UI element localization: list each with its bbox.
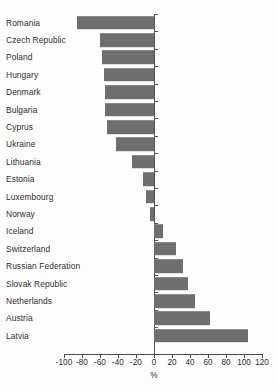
bar-row: Romania (0, 14, 278, 31)
category-tick (154, 205, 158, 206)
bar-row: Poland (0, 49, 278, 66)
bar-chart: RomaniaCzech RepublicPolandHungaryDenmar… (0, 0, 278, 391)
bar-row: Czech Republic (0, 31, 278, 48)
x-tick-label: 60 (203, 358, 212, 367)
bar (154, 259, 183, 273)
bar (154, 242, 176, 256)
category-label: Iceland (6, 226, 96, 236)
category-tick (154, 171, 158, 172)
category-tick (154, 14, 158, 15)
category-tick (154, 31, 158, 32)
category-tick (154, 258, 158, 259)
category-label: Denmark (6, 87, 96, 97)
x-tick-label: -100 (56, 358, 72, 367)
bar-row: Austria (0, 310, 278, 327)
bar (154, 225, 163, 239)
category-tick (154, 153, 158, 154)
bar (154, 277, 188, 291)
category-tick (154, 223, 158, 224)
bar-row: Hungary (0, 66, 278, 83)
x-tick-label: 80 (221, 358, 230, 367)
bar-row: Estonia (0, 171, 278, 188)
category-label: Austria (6, 313, 96, 323)
bar (154, 294, 195, 308)
category-label: Estonia (6, 174, 96, 184)
x-axis-title: % (150, 371, 157, 380)
category-label: Bulgaria (6, 105, 96, 115)
bar-row: Netherlands (0, 292, 278, 309)
bar (154, 312, 210, 326)
bar (105, 103, 154, 117)
x-tick-label: -60 (94, 358, 106, 367)
bar (132, 155, 154, 169)
category-tick (154, 101, 158, 102)
bar-row: Switzerland (0, 240, 278, 257)
bar (77, 16, 154, 30)
category-tick (154, 310, 158, 311)
bar (154, 329, 248, 343)
category-label: Cyprus (6, 122, 96, 132)
bar (143, 172, 154, 186)
bar-row: Luxembourg (0, 188, 278, 205)
category-tick (154, 275, 158, 276)
x-axis-line (64, 354, 262, 355)
bar (116, 138, 154, 152)
category-tick (154, 240, 158, 241)
bar-row: Russian Federation (0, 258, 278, 275)
bar (146, 190, 154, 204)
bar (100, 33, 154, 47)
category-tick (154, 292, 158, 293)
x-tick-label: -20 (130, 358, 142, 367)
category-label: Slovak Republic (6, 279, 96, 289)
bar-row: Cyprus (0, 118, 278, 135)
bar-row: Lithuania (0, 153, 278, 170)
x-tick-label: 0 (152, 358, 157, 367)
category-tick (154, 188, 158, 189)
bar (102, 51, 154, 65)
x-tick-label: 100 (237, 358, 251, 367)
x-tick-label: 120 (255, 358, 269, 367)
plot-area: RomaniaCzech RepublicPolandHungaryDenmar… (0, 0, 278, 391)
bar-row: Norway (0, 205, 278, 222)
category-tick (154, 118, 158, 119)
category-label: Latvia (6, 331, 96, 341)
bar (104, 68, 154, 82)
bar (150, 207, 154, 221)
category-label: Switzerland (6, 244, 96, 254)
category-tick (154, 66, 158, 67)
category-tick (154, 84, 158, 85)
bar-row: Slovak Republic (0, 275, 278, 292)
category-label: Luxembourg (6, 192, 96, 202)
category-label: Poland (6, 52, 96, 62)
bar-row: Bulgaria (0, 101, 278, 118)
category-label: Norway (6, 209, 96, 219)
bar-row: Iceland (0, 223, 278, 240)
category-label: Hungary (6, 70, 96, 80)
category-tick (154, 49, 158, 50)
bar-row: Ukraine (0, 136, 278, 153)
category-label: Ukraine (6, 139, 96, 149)
category-label: Russian Federation (6, 261, 96, 271)
category-label: Netherlands (6, 296, 96, 306)
x-tick-label: 40 (185, 358, 194, 367)
x-tick-label: 20 (167, 358, 176, 367)
bar (107, 120, 154, 134)
bar-row: Latvia (0, 327, 278, 344)
x-tick-label: -40 (112, 358, 124, 367)
category-label: Lithuania (6, 157, 96, 167)
category-tick (154, 136, 158, 137)
bar (105, 85, 155, 99)
category-label: Czech Republic (6, 35, 96, 45)
bar-row: Denmark (0, 84, 278, 101)
category-tick (154, 327, 158, 328)
x-tick-label: -80 (76, 358, 88, 367)
